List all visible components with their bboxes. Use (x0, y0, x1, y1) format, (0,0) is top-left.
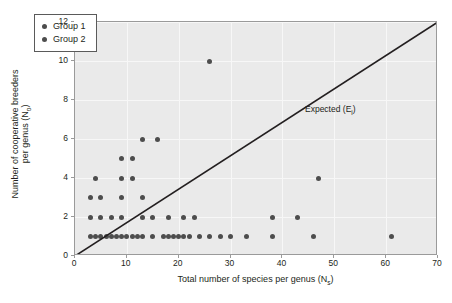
x-tick-mark (333, 255, 334, 258)
x-tick-mark (230, 255, 231, 258)
x-axis-title: Total number of species per genus (Ns) (74, 274, 437, 286)
x-tick-mark (385, 255, 386, 258)
x-tick-mark (178, 255, 179, 258)
legend-item-group-2[interactable]: Group 2 (42, 33, 86, 46)
y-tick-mark (71, 255, 74, 256)
y-tick-label: 0 (44, 250, 68, 260)
expected-reference-line (75, 22, 437, 255)
scatter-chart-figure: Expected (Ei) Group 1 Group 2 0102030405… (0, 0, 452, 303)
y-tick-label: 4 (44, 172, 68, 182)
y-tick-label: 2 (44, 211, 68, 221)
expected-line-annotation: Expected (Ei) (305, 104, 356, 116)
x-tick-label: 70 (432, 258, 441, 268)
y-tick-mark (71, 60, 74, 61)
x-tick-mark (74, 255, 75, 258)
y-tick-mark (71, 177, 74, 178)
x-tick-label: 10 (121, 258, 130, 268)
y-axis-title-line1: Number of cooperative breeders (10, 69, 20, 198)
y-tick-mark (71, 21, 74, 22)
x-tick-mark (281, 255, 282, 258)
y-tick-label: 6 (44, 133, 68, 143)
x-tick-label: 30 (225, 258, 234, 268)
y-tick-mark (71, 138, 74, 139)
x-axis-title-tail: ) (330, 274, 333, 284)
legend-label-group-2: Group 2 (53, 35, 86, 44)
y-axis-title-line2: per genus (N (20, 111, 30, 163)
y-axis-title: Number of cooperative breeders per genus… (10, 17, 32, 251)
x-axis-title-main: Total number of species per genus (N (178, 274, 328, 284)
y-tick-mark (71, 99, 74, 100)
plot-panel: Expected (Ei) (74, 21, 437, 255)
y-axis-title-tail: ) (20, 105, 30, 108)
x-tick-label: 60 (380, 258, 389, 268)
x-tick-mark (126, 255, 127, 258)
y-tick-mark (71, 216, 74, 217)
y-axis-title-subscript: o (25, 108, 32, 112)
y-tick-label: 12 (44, 16, 68, 26)
expected-annotation-text: Expected (E (305, 104, 351, 114)
x-tick-label: 0 (72, 258, 77, 268)
x-tick-label: 40 (277, 258, 286, 268)
y-tick-label: 8 (44, 94, 68, 104)
x-tick-label: 20 (173, 258, 182, 268)
x-tick-label: 50 (329, 258, 338, 268)
legend-marker-icon-group-2 (42, 37, 47, 42)
expected-annotation-tail: ) (353, 104, 356, 114)
x-tick-mark (437, 255, 438, 258)
y-tick-label: 10 (44, 55, 68, 65)
